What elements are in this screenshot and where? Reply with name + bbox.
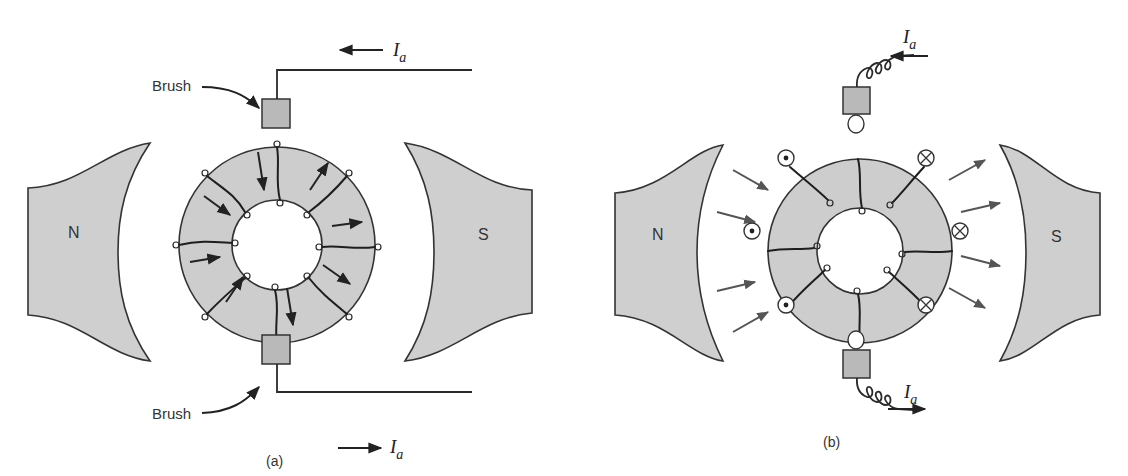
- contact-bottom-b: [848, 331, 864, 349]
- cross-symbol-icon: [918, 297, 934, 313]
- lead-top-a: [277, 70, 472, 99]
- brush-bottom-a: [262, 335, 290, 364]
- figure-a: N S: [28, 39, 532, 469]
- brush-bottom-label-a: Brush: [152, 405, 191, 422]
- dc-machine-diagram: N S: [0, 0, 1128, 476]
- south-pole-label-a: S: [478, 226, 489, 243]
- brush-top-pointer-a: [202, 87, 259, 108]
- south-pole-a: [405, 143, 532, 361]
- lead-bottom-a: [277, 364, 472, 392]
- brush-bottom-b: [843, 350, 870, 378]
- north-pole-a: [28, 143, 150, 361]
- south-pole-label-b: S: [1051, 228, 1062, 245]
- dot-symbol-icon: [778, 150, 794, 166]
- caption-b: (b): [823, 434, 840, 450]
- pigtail-top-b: [857, 55, 914, 87]
- contact-top-b: [848, 115, 864, 133]
- brush-top-label-a: Brush: [152, 77, 191, 94]
- current-label-top-b: Ia: [902, 26, 916, 52]
- brush-bottom-pointer-a: [202, 387, 259, 413]
- armature-hole-a: [232, 200, 322, 290]
- caption-a: (a): [266, 453, 283, 469]
- flux-arrows-left-b: [717, 170, 768, 332]
- cross-symbol-icon: [918, 150, 934, 166]
- north-pole-label-b: N: [652, 226, 664, 243]
- brush-top-a: [262, 99, 290, 128]
- north-pole-label-a: N: [68, 224, 80, 241]
- current-label-bottom-a: Ia: [389, 436, 403, 462]
- dot-symbol-icon: [744, 223, 760, 239]
- south-pole-b: [1000, 145, 1100, 361]
- north-pole-b: [615, 145, 723, 361]
- current-label-bottom-b: Ia: [903, 381, 917, 407]
- current-label-top-a: Ia: [392, 39, 406, 65]
- brush-top-b: [843, 87, 870, 114]
- cross-symbol-icon: [952, 223, 968, 239]
- figure-b: N S: [615, 26, 1100, 450]
- armature-hole-b: [817, 208, 903, 294]
- dot-symbol-icon: [778, 297, 794, 313]
